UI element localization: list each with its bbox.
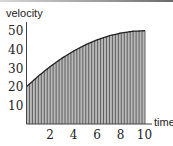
x-tick-label: 2 bbox=[46, 128, 54, 142]
x-tick-label: 10 bbox=[137, 128, 152, 142]
y-tick-label: 30 bbox=[8, 62, 23, 76]
x-tick-label: 6 bbox=[93, 128, 101, 142]
y-axis-label: velocity bbox=[6, 7, 43, 19]
y-tick-label: 40 bbox=[8, 43, 23, 57]
chart: velocity time 50 40 30 20 10 2 4 6 8 10 bbox=[0, 0, 173, 146]
y-tick-label: 20 bbox=[8, 80, 23, 94]
plot-area bbox=[27, 31, 146, 124]
x-tick-label: 8 bbox=[117, 128, 125, 142]
x-tick-label: 4 bbox=[70, 128, 78, 142]
y-tick-label: 10 bbox=[8, 99, 23, 113]
x-axis-label: time bbox=[154, 116, 173, 128]
y-tick-label: 50 bbox=[8, 24, 23, 38]
